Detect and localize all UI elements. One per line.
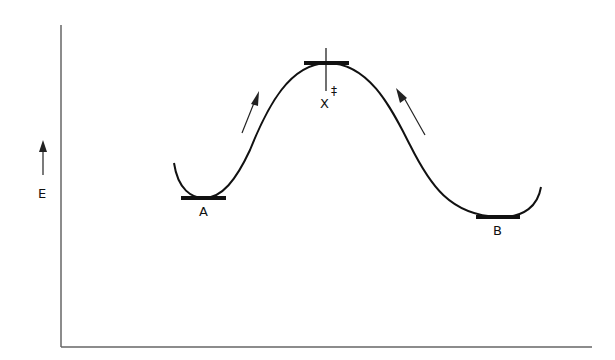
up-arrow-icon [39,140,47,175]
transition-state-superscript: ‡ [331,84,337,98]
energy-diagram [0,0,615,360]
y-axis-label: E [38,186,46,201]
forward-arrow-icon [242,91,259,133]
reactant-label: A [199,204,208,219]
energy-curve [174,63,541,217]
transition-state-label: X [320,96,329,111]
product-label: B [493,223,502,238]
